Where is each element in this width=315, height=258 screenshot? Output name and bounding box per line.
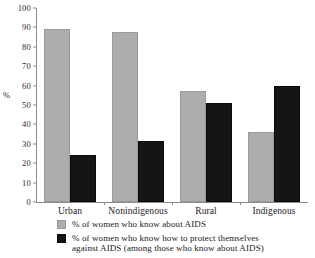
- legend-item-know-about-aids: % of women who know about AIDS: [57, 219, 312, 230]
- y-axis-tick-mark: [33, 85, 36, 86]
- x-axis-tick-label: Urban: [58, 206, 82, 216]
- bar-chart: % 0102030405060708090100 UrbanNonindigen…: [0, 0, 315, 258]
- x-axis-tick-mark: [240, 202, 241, 205]
- legend-label-know-about-aids: % of women who know about AIDS: [72, 219, 206, 230]
- legend-label-line2: against AIDS (among those who know about…: [72, 243, 264, 253]
- y-axis-tick-mark: [33, 182, 36, 183]
- bar: [274, 86, 300, 202]
- legend-item-know-how-to-protect: % of women who know how to protect thems…: [57, 233, 312, 254]
- x-axis-tick-mark: [104, 202, 105, 205]
- y-axis-tick-mark: [33, 124, 36, 125]
- bar-group: [180, 8, 232, 202]
- bar-group: [248, 8, 300, 202]
- y-axis-tick-mark: [33, 202, 36, 203]
- bar: [70, 155, 96, 202]
- x-axis-tick-label: Nonindigenous: [108, 206, 167, 216]
- x-axis-tick-mark: [172, 202, 173, 205]
- legend-swatch-dark-icon: [57, 234, 66, 243]
- bar: [206, 103, 232, 202]
- y-axis-tick-mark: [33, 8, 36, 9]
- bar-group: [44, 8, 96, 202]
- y-axis-tick-mark: [33, 66, 36, 67]
- bar: [112, 32, 138, 202]
- legend-swatch-light-icon: [57, 220, 66, 229]
- plot-area: 0102030405060708090100: [36, 8, 308, 202]
- y-axis-tick-mark: [33, 163, 36, 164]
- bar: [138, 141, 164, 202]
- bar: [44, 29, 70, 202]
- y-axis-tick-mark: [33, 46, 36, 47]
- y-axis-tick-mark: [33, 27, 36, 28]
- x-axis-tick-label: Rural: [195, 206, 217, 216]
- legend-label-line1: % of women who know how to protect thems…: [72, 233, 259, 243]
- y-axis-tick-mark: [33, 105, 36, 106]
- legend-label-know-how-to-protect: % of women who know how to protect thems…: [72, 233, 264, 254]
- bar-group: [112, 8, 164, 202]
- y-axis-tick-mark: [33, 143, 36, 144]
- y-axis-label: %: [3, 90, 10, 100]
- bar: [248, 132, 274, 202]
- x-axis-tick-label: Indigenous: [252, 206, 295, 216]
- bar: [180, 91, 206, 202]
- chart-legend: % of women who know about AIDS % of wome…: [57, 219, 312, 257]
